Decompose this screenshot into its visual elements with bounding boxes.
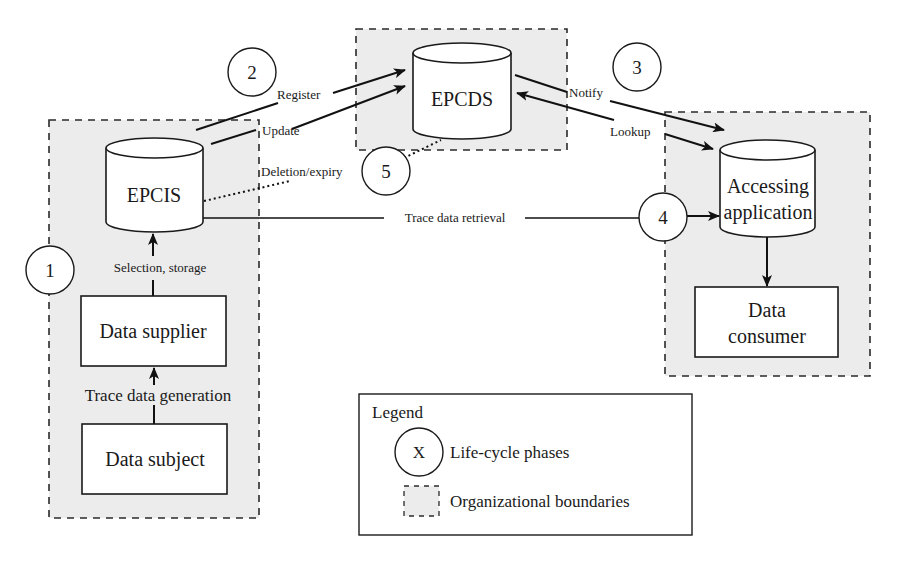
phase-2-label: 2 <box>247 62 257 83</box>
phase-4-marker: 4 <box>639 193 687 241</box>
legend-title: Legend <box>372 403 423 422</box>
data-supplier-node[interactable]: Data supplier <box>81 296 226 366</box>
data-consumer-label-2: consumer <box>728 325 806 347</box>
update-label: Update <box>262 123 300 138</box>
legend-boundary-swatch <box>404 486 439 516</box>
register-label: Register <box>277 87 321 102</box>
trace-data-retrieval-label: Trace data retrieval <box>405 210 506 225</box>
epcis-node[interactable]: EPCIS <box>106 138 203 232</box>
phase-3-marker: 3 <box>613 43 661 91</box>
epcis-label: EPCIS <box>127 184 181 206</box>
deletion-expiry-label: Deletion/expiry <box>261 164 343 179</box>
phase-1-marker: 1 <box>26 246 74 294</box>
phase-5-label: 5 <box>381 161 391 182</box>
phase-1-label: 1 <box>45 260 55 281</box>
trace-data-generation-label: Trace data generation <box>85 386 232 405</box>
phase-5-marker: 5 <box>362 147 410 195</box>
accessing-application-label-2: application <box>724 201 813 224</box>
accessing-application-label-1: Accessing <box>727 175 809 198</box>
data-supplier-label: Data supplier <box>99 320 207 343</box>
data-subject-node[interactable]: Data subject <box>82 424 227 494</box>
phase-2-marker: 2 <box>228 48 276 96</box>
diagram-canvas: EPCIS EPCDS Accessing application Data c… <box>0 0 898 563</box>
legend-phase-label: Life-cycle phases <box>450 443 569 462</box>
phase-3-label: 3 <box>632 57 642 78</box>
legend-boundary-label: Organizational boundaries <box>450 492 630 511</box>
epcds-label: EPCDS <box>431 88 493 110</box>
data-consumer-label-1: Data <box>748 299 786 321</box>
data-subject-label: Data subject <box>105 448 205 471</box>
accessing-application-node[interactable]: Accessing application <box>720 140 815 237</box>
lookup-label: Lookup <box>610 124 650 139</box>
notify-label: Notify <box>569 85 603 100</box>
selection-storage-label: Selection, storage <box>114 260 207 275</box>
legend: Legend X Life-cycle phases Organizationa… <box>359 394 692 535</box>
phase-4-label: 4 <box>658 207 668 228</box>
legend-phase-symbol: X <box>413 443 425 462</box>
epcds-node[interactable]: EPCDS <box>413 43 511 139</box>
data-consumer-node[interactable]: Data consumer <box>695 287 838 357</box>
